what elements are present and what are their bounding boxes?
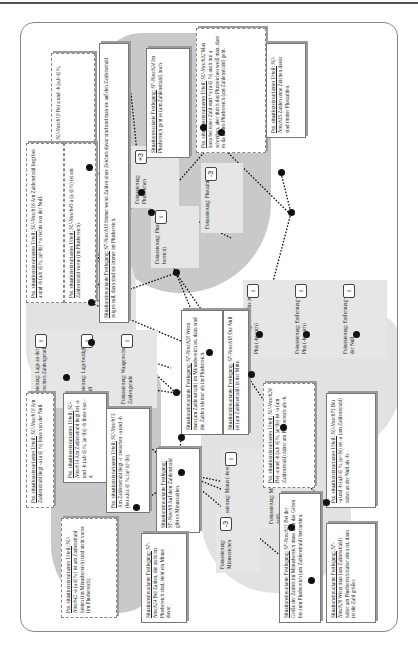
box-title: Pot. situationsinvariantes Urteil: bbox=[68, 231, 74, 298]
festlegung-box-nosch29[interactable]: Situationsinvariante Festlegung: SF-Nosc… bbox=[326, 523, 376, 623]
page-rule bbox=[0, 2, 418, 4]
box-title: Pot. situationsinvariantes Urteil: bbox=[270, 66, 276, 133]
festlegung-box-nosch24-hoch[interactable]: Situationsvariante Festlegung: SF-Nosch2… bbox=[146, 48, 190, 158]
urteil-box-nosch18-minus[interactable]: Pot. situationsinvariantes Urteil: SU-No… bbox=[26, 393, 54, 508]
arrow-updown-icon: ↕ bbox=[155, 210, 167, 224]
box-title: Pot. situationsinvariantes Urteil: bbox=[67, 411, 73, 478]
festlegung-box-nosch9[interactable]: Situationsinvariante Festlegung: SF-Nosc… bbox=[156, 448, 200, 533]
box-title: Situationsinvariante Festlegung: bbox=[283, 551, 289, 618]
box-ref: SU-Nosch15 bbox=[110, 413, 116, 439]
focus-node-gehen-bis-plus[interactable]: Fokussierung: Gehen bis zum Plus (-berei… bbox=[243, 280, 291, 358]
box-title: Situationsinvariante Festlegung: bbox=[330, 551, 336, 618]
festlegung-box-nosch24-minus[interactable]: Situationsinvariante Festlegung: SF-Nosc… bbox=[141, 533, 187, 623]
festlegung-box-nosch38[interactable]: Situationsinvariante Festlegung: SF-Nosc… bbox=[223, 310, 249, 435]
arrow-updown-icon: ↕ bbox=[225, 452, 237, 466]
focus-node-entfernung-plus[interactable]: Fokussierung: Entfernung vom Plus (-bere… bbox=[291, 280, 339, 358]
box-ref: SF-Nosch9 bbox=[167, 505, 173, 528]
box-text: Am Zahlenstrahl liegt -c zwischen -a und… bbox=[117, 417, 130, 508]
arrow-updown-icon: ↕ bbox=[295, 284, 307, 298]
box-ref: SU-Nosch18 bbox=[55, 113, 61, 139]
box-title: Pot. situationsinvariantes Urteil: bbox=[330, 436, 336, 503]
focus-label: Fokussierung: Entfernung von der Null bbox=[342, 291, 355, 354]
urteil-box-nosch75[interactable]: Pot. situationsinvariantes Urteil: SU-No… bbox=[326, 393, 376, 508]
box-ref: SF-Nosch24 bbox=[150, 63, 156, 89]
box-title: Situationsinvariante Festlegung: bbox=[160, 461, 166, 528]
focus-node-waagerechte[interactable]: Fokussierung: Waagerechte Zahlengerade ↕ bbox=[117, 330, 157, 408]
urteil-box-nosch16[interactable]: Pot. situationsinvariantes Urteil: SU-No… bbox=[26, 143, 64, 303]
urteil-box-nosch32[interactable]: Pot. situationsinvariantes Urteil: SU-No… bbox=[196, 28, 266, 153]
box-ref: SU-Nosch26 bbox=[267, 388, 273, 414]
festlegung-box-nosch33[interactable]: Situationsinvariante Festlegung: SF-Nosc… bbox=[99, 43, 129, 323]
box-ref: SU-Nosch45 bbox=[68, 203, 74, 229]
box-title: Situationsvariante Festlegung: bbox=[150, 90, 156, 153]
festlegung-box-nosch28[interactable]: Situationsinvariante Festlegung: SF-Nosc… bbox=[181, 310, 223, 435]
box-title: Pot. situationsinvariantes Urteil: bbox=[267, 416, 273, 483]
minus-three-badge: -3 bbox=[205, 167, 217, 181]
diagram-frame: Fokussierung: Lage an der waagerechten Z… bbox=[20, 22, 398, 632]
box-title: Situationsinvariante Festlegung: bbox=[103, 251, 109, 318]
box-title: Pot. situationsinvariantes Urteil: bbox=[200, 81, 206, 148]
box-ref: SF-Nosch38 bbox=[227, 336, 233, 362]
box-ref: SU-Nosch32 bbox=[200, 53, 206, 79]
urteil-box-nosch15[interactable]: Pot. situationsinvariantes Urteil: SU-No… bbox=[106, 408, 150, 513]
focus-label: Fokussierung: Entfernung vom Plus (-bere… bbox=[294, 289, 307, 354]
minus-three-badge: -3 bbox=[220, 517, 232, 531]
box-text: Bei -a und -b (a,b ∈ ℕ, |a|<|b|) ist -a … bbox=[274, 395, 287, 483]
box-ref: SU-Nosch75 bbox=[330, 408, 336, 434]
box-title: Situationsinvariante Festlegung: bbox=[145, 551, 151, 618]
focus-label: Fokussierung: Waagerechte Zahlengerade bbox=[120, 347, 133, 404]
arrow-updown-icon: ↕ bbox=[35, 334, 47, 348]
focus-label: Fokussierung: Minuszeichen bbox=[219, 540, 232, 569]
urteil-box-nosch35[interactable]: Pot. situationsinvariantes Urteil: SU-No… bbox=[266, 43, 306, 138]
festlegung-box-nosch21[interactable]: Situationsinvariante Festlegung: SF-Nosc… bbox=[279, 493, 321, 623]
focus-node-minuszeichen[interactable]: Fokussierung: Minuszeichen -3 bbox=[216, 513, 260, 573]
box-title: Situationsinvariante Festlegung: bbox=[185, 363, 191, 430]
arrow-updown-icon: ↕ bbox=[121, 334, 133, 348]
focus-node-pluszahl[interactable]: Fokussierung: Pluszahl -3 bbox=[201, 163, 243, 233]
box-title: Pot. situationsinvariantes Urteil: bbox=[30, 231, 36, 298]
box-ref: SU-Nosch16 bbox=[30, 203, 36, 229]
focus-node-plus-bereich[interactable]: Fokussierung: Plus (-bereich) ↕ bbox=[151, 206, 199, 268]
urteil-box-nosch42[interactable]: Pot. situationsinvariantes Urteil: SU-No… bbox=[61, 518, 117, 618]
box-ref: SU-Nosch18 bbox=[30, 408, 36, 434]
arrow-updown-icon: ↕ bbox=[343, 284, 355, 298]
focus-label: Fokussierung: Pluszahl bbox=[204, 181, 210, 229]
diagram-canvas: Fokussierung: Lage an der waagerechten Z… bbox=[21, 23, 398, 632]
urteil-box-nosch14[interactable]: Pot. situationsinvariantes Urteil: SU-No… bbox=[63, 393, 107, 483]
box-title: Situationsinvariante Festlegung: bbox=[227, 363, 233, 430]
urteil-box-nosch26[interactable]: Pot. situationsinvariantes Urteil: SU-No… bbox=[263, 383, 315, 488]
box-title: Pot. situationsinvariantes Urteil: bbox=[30, 436, 36, 503]
box-title: Pot. situationsinvariantes Urteil: bbox=[65, 546, 71, 613]
focus-label: Fokussierung: Plus (-bereich) bbox=[154, 220, 167, 264]
box-ref: SF-Nosch33 bbox=[103, 224, 109, 250]
arrow-updown-icon: ↕ bbox=[247, 284, 259, 298]
box-title: Pot. situationsinvariantes Urteil: bbox=[110, 441, 116, 508]
focus-node-entfernung-null[interactable]: Fokussierung: Entfernung von der Null ↕ bbox=[339, 280, 387, 358]
box-ref: SF-Nosch28 bbox=[185, 336, 191, 362]
